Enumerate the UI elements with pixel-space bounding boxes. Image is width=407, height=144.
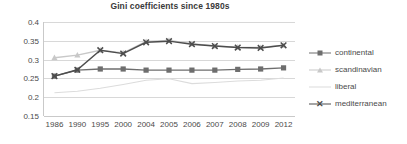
x-axis-tick-labels: 1986199019952000200420052006200720082009…: [43, 120, 295, 134]
chart-legend: continentalscandinavianliberal✕mediterra…: [309, 44, 405, 112]
data-point-marker: [281, 65, 286, 70]
data-point-marker: [166, 68, 171, 73]
y-axis-tick: 0.15: [0, 112, 39, 121]
x-axis-tick: 2000: [114, 120, 132, 129]
x-axis-tick: 2004: [137, 120, 155, 129]
chart-title: Gini coefficients since 1980s: [0, 1, 340, 11]
legend-item-liberal[interactable]: liberal: [309, 78, 405, 95]
data-point-marker: [98, 66, 103, 71]
y-axis-tick-labels: 0.40.350.30.250.20.15: [0, 22, 39, 116]
gini-coefficients-line-chart: Gini coefficients since 1980s 0.40.350.3…: [0, 0, 407, 144]
legend-swatch-triangle-icon: [309, 64, 331, 76]
y-axis-tick: 0.4: [0, 18, 39, 27]
legend-item-mediterranean[interactable]: ✕mediterranean: [309, 95, 405, 112]
data-point-marker: [258, 66, 263, 71]
y-axis-tick: 0.25: [0, 74, 39, 83]
legend-item-continental[interactable]: continental: [309, 44, 405, 61]
series-layer: [43, 22, 295, 116]
series-line: [54, 78, 283, 93]
legend-label: scandinavian: [335, 65, 382, 74]
x-axis-tick: 2006: [183, 120, 201, 129]
legend-label: mediterranean: [335, 99, 387, 108]
x-axis-tick: 1986: [46, 120, 64, 129]
data-point-marker: [143, 68, 148, 73]
x-axis-tick: 2009: [252, 120, 270, 129]
y-axis-tick: 0.35: [0, 36, 39, 45]
plot-area: [43, 22, 295, 116]
x-axis-tick: 2008: [229, 120, 247, 129]
data-point-marker: [189, 68, 194, 73]
x-axis-tick: 1995: [91, 120, 109, 129]
series-line: [54, 40, 283, 57]
x-axis-tick: 2007: [206, 120, 224, 129]
y-axis-tick: 0.3: [0, 55, 39, 64]
series-liberal: [54, 78, 283, 93]
legend-swatch-square-icon: [309, 47, 331, 59]
x-axis-tick: 2012: [275, 120, 293, 129]
series-continental: [52, 65, 286, 78]
legend-swatch-none-icon: [309, 81, 331, 93]
legend-label: continental: [335, 48, 374, 57]
x-axis-tick: 2005: [160, 120, 178, 129]
x-axis-tick: 1990: [68, 120, 86, 129]
data-point-marker: [235, 67, 240, 72]
gridline: [44, 116, 295, 117]
data-point-marker: [121, 66, 126, 71]
series-mediterranean: [52, 38, 287, 79]
y-axis-tick: 0.2: [0, 93, 39, 102]
legend-label: liberal: [335, 82, 356, 91]
legend-swatch-x-icon: ✕: [309, 98, 331, 110]
data-point-marker: [212, 68, 217, 73]
legend-item-scandinavian[interactable]: scandinavian: [309, 61, 405, 78]
